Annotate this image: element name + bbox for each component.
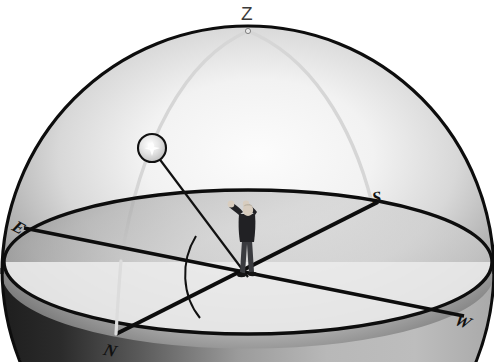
label-south: S (371, 188, 383, 209)
label-zenith: Z (241, 3, 253, 25)
zenith-point (245, 28, 250, 33)
celestial-object[interactable] (138, 134, 166, 162)
celestial-sphere-diagram: Z S E W N (0, 0, 494, 362)
diagram-canvas (0, 0, 494, 362)
